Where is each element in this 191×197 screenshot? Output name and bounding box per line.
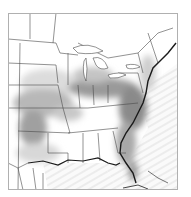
map-canvas (8, 13, 178, 190)
map-panel (8, 13, 178, 190)
mexico-borders (8, 163, 43, 190)
